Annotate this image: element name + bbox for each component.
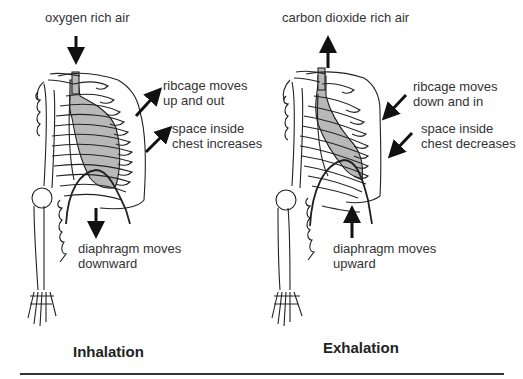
inhalation-title: Inhalation — [73, 343, 144, 360]
inhalation-diaphragm-label-line2: downward — [78, 256, 137, 272]
exhalation-ribcage-label-line1: ribcage moves — [413, 79, 498, 95]
exhalation-diaphragm-label-line1: diaphragm moves — [333, 241, 436, 257]
space-increase-arrow-icon — [146, 132, 166, 152]
exhalation-space-label-line1: space inside — [421, 121, 493, 137]
breathing-diagram — [0, 0, 523, 379]
inhalation-diaphragm-label-line1: diaphragm moves — [78, 241, 181, 257]
exhalation-space-label-line2: chest decreases — [421, 136, 516, 152]
inhalation-ribcage-label-line2: up and out — [163, 93, 224, 109]
exhalation-air-label: carbon dioxide rich air — [282, 10, 409, 26]
bottom-divider — [20, 373, 504, 375]
inhalation-ribcage-label-line1: ribcage moves — [163, 78, 248, 94]
ribcage-out-arrow-icon — [136, 94, 156, 116]
exhalation-diaphragm-label-line2: upward — [333, 256, 376, 272]
space-decrease-arrow-icon — [394, 133, 412, 152]
inhalation-space-label-line2: chest increases — [172, 136, 262, 152]
inhalation-space-label-line1: space inside — [172, 121, 244, 137]
ribcage-in-arrow-icon — [388, 95, 406, 114]
exhalation-ribcage-label-line2: down and in — [413, 94, 483, 110]
inhalation-skeleton — [28, 72, 145, 326]
exhalation-title: Exhalation — [323, 339, 399, 356]
inhalation-air-label: oxygen rich air — [45, 10, 130, 26]
exhalation-skeleton — [272, 68, 381, 326]
